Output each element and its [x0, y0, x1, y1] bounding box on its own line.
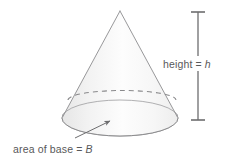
cone-figure: height = h area of base = B: [0, 0, 240, 163]
cone-lateral-surface: [62, 11, 178, 136]
base-label-equals: =: [76, 143, 82, 155]
height-label: height = h: [163, 58, 211, 70]
height-label-equals: =: [196, 58, 202, 70]
height-label-variable: h: [205, 58, 211, 70]
base-label-variable: B: [85, 143, 92, 155]
base-label-word: area of base: [13, 143, 73, 155]
cone-diagram-canvas: [0, 0, 240, 163]
base-area-label: area of base = B: [13, 143, 93, 155]
height-label-word: height: [163, 58, 193, 70]
